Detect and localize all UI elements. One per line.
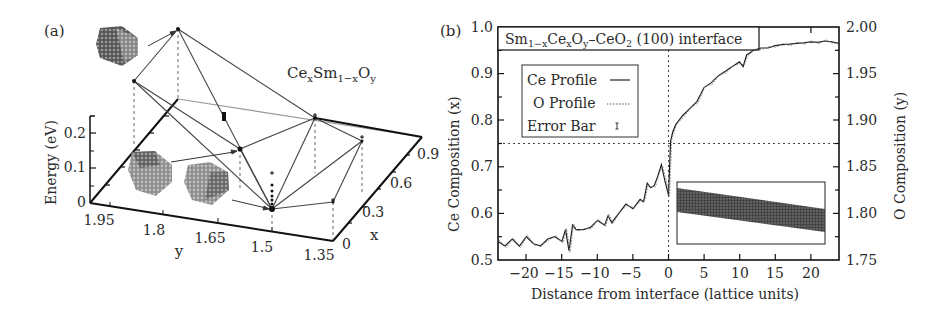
energy-axis-label: Energy (eV) xyxy=(43,120,59,205)
svg-text:−10: −10 xyxy=(580,265,610,281)
right-axis-label: O Composition (y) xyxy=(892,92,908,220)
panel-a-title: CexSm1−xOy xyxy=(287,64,376,84)
svg-text:1.90: 1.90 xyxy=(846,112,877,128)
svg-text:−15: −15 xyxy=(544,265,574,281)
y-tick-labels: 1.95 1.8 1.65 1.5 1.35 xyxy=(83,212,334,263)
y-axis-label: y xyxy=(174,242,184,260)
figure-canvas: (a) xyxy=(0,0,948,316)
svg-text:1.75: 1.75 xyxy=(846,252,877,268)
left-tick-labels: 0.5 0.6 0.7 0.8 0.9 1.0 xyxy=(471,19,493,268)
svg-text:1.35: 1.35 xyxy=(303,247,334,263)
right-tick-labels: 1.75 1.80 1.85 1.90 1.95 2.00 xyxy=(846,19,877,268)
drop-lines xyxy=(134,29,362,240)
svg-text:10: 10 xyxy=(731,265,749,281)
svg-text:0.6: 0.6 xyxy=(390,175,412,191)
svg-text:0.9: 0.9 xyxy=(417,146,439,162)
panel-b: (b) 0.5 0.6 xyxy=(440,19,908,302)
svg-text:0: 0 xyxy=(342,236,351,252)
x-axis-label-b: Distance from interface (lattice units) xyxy=(531,286,799,302)
svg-text:1.80: 1.80 xyxy=(846,205,877,221)
svg-text:0.8: 0.8 xyxy=(471,112,493,128)
svg-text:0.7: 0.7 xyxy=(471,158,493,174)
svg-text:0: 0 xyxy=(664,265,673,281)
svg-text:1.65: 1.65 xyxy=(194,230,225,246)
panel-b-label: (b) xyxy=(440,22,461,40)
x-axis-label: x xyxy=(370,226,379,244)
legend-error: Error Bar xyxy=(527,118,596,134)
legend-ce: Ce Profile xyxy=(527,72,597,88)
svg-text:0.3: 0.3 xyxy=(362,204,384,220)
svg-text:1.0: 1.0 xyxy=(471,19,493,35)
svg-text:2.00: 2.00 xyxy=(846,19,877,35)
energy-tick-labels: 0 0.1 0.2 xyxy=(64,125,86,210)
x-tick-labels-b: −20 −15 −10 −5 0 5 10 15 20 xyxy=(509,265,820,281)
svg-text:0.6: 0.6 xyxy=(471,205,493,221)
interface-inset xyxy=(677,182,825,244)
svg-text:−5: −5 xyxy=(621,265,642,281)
svg-text:0.9: 0.9 xyxy=(471,65,493,81)
x-tick-labels: 0 0.3 0.6 0.9 xyxy=(342,146,439,252)
svg-text:1.95: 1.95 xyxy=(83,212,114,228)
svg-text:1.85: 1.85 xyxy=(846,158,877,174)
svg-text:0: 0 xyxy=(77,194,86,210)
svg-text:20: 20 xyxy=(802,265,820,281)
svg-text:1.5: 1.5 xyxy=(251,239,273,255)
legend: Ce Profile O Profile Error Bar xyxy=(522,65,638,137)
svg-text:0.5: 0.5 xyxy=(471,252,493,268)
svg-text:15: 15 xyxy=(766,265,784,281)
legend-o: O Profile xyxy=(533,95,596,111)
back-edge-dark xyxy=(315,118,422,137)
left-axis-label: Ce Composition (x) xyxy=(446,96,462,232)
panel-a-label: (a) xyxy=(44,22,65,40)
svg-text:1.8: 1.8 xyxy=(143,222,165,238)
svg-text:5: 5 xyxy=(700,265,709,281)
svg-text:−20: −20 xyxy=(509,265,539,281)
svg-text:0.2: 0.2 xyxy=(64,125,86,141)
panel-a: (a) xyxy=(43,22,439,263)
svg-text:1.95: 1.95 xyxy=(846,65,877,81)
svg-text:0.1: 0.1 xyxy=(64,159,86,175)
